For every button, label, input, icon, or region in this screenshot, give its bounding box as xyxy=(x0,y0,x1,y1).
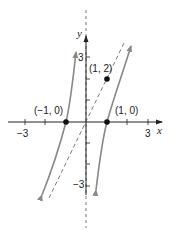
point-1-0 xyxy=(104,119,110,125)
x-tick-label-3: 3 xyxy=(145,128,151,139)
point-label-neg1-0: (−1, 0) xyxy=(34,105,63,116)
point-label-1-0: (1, 0) xyxy=(115,105,138,116)
point-neg1-0 xyxy=(63,119,69,125)
point-label-1-2: (1, 2) xyxy=(89,63,112,74)
graph: y x −3 3 3 −3 (−1, 0) (1, 0) (1, 2) xyxy=(0,0,174,230)
y-tick-label-3: 3 xyxy=(78,52,84,63)
y-axis-label: y xyxy=(76,27,82,39)
point-1-2 xyxy=(104,76,110,82)
y-tick-label-neg3: −3 xyxy=(73,179,85,190)
x-tick-label-neg3: −3 xyxy=(17,128,29,139)
x-axis-label: x xyxy=(156,124,162,136)
left-branch-curve xyxy=(42,52,76,195)
